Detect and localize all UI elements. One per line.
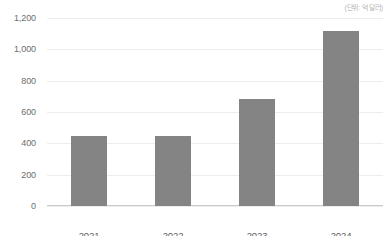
y-axis-tick-label: 800 [21,76,36,86]
bar-2024[interactable] [323,31,359,206]
bar-slot [215,18,299,206]
bar-2021[interactable] [71,136,107,207]
x-axis-tick-label: 2021 [79,230,100,236]
gridline [47,206,383,207]
bar-slot [299,18,383,206]
y-axis-tick-label: 600 [21,107,36,117]
bar-2022[interactable] [155,136,191,207]
x-axis-tick-label: 2023 [247,230,268,236]
y-axis-tick-label: 0 [31,201,36,211]
y-axis-tick-label: 1,000 [14,44,36,54]
plot-area: 02004006008001,0001,200 2021202220232024 [47,18,383,206]
bar-slot [47,18,131,206]
x-axis-tick-label: 2022 [163,230,184,236]
y-axis-tick-label: 200 [21,170,36,180]
bars-layer [47,18,383,206]
y-axis-tick-label: 1,200 [14,13,36,23]
y-axis-tick-label: 400 [21,138,36,148]
bar-slot [131,18,215,206]
bar-chart: (단위: 억 달러) 02004006008001,0001,200 20212… [0,0,389,236]
bar-2023[interactable] [239,99,275,206]
unit-annotation: (단위: 억 달러) [345,2,384,12]
x-axis-tick-label: 2024 [331,230,352,236]
